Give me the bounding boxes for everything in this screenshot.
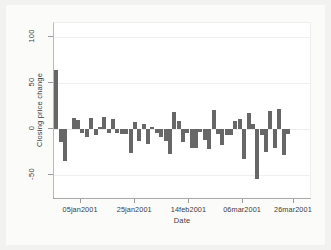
bar <box>129 129 133 153</box>
x-axis-line <box>53 198 311 199</box>
y-axis-tick-label: 0 <box>14 122 48 134</box>
y-axis-tick-label-text: 50 <box>27 77 36 86</box>
gridline <box>54 83 310 84</box>
x-axis-tick <box>293 199 294 203</box>
gridline <box>54 175 310 176</box>
bar <box>137 129 141 141</box>
bar <box>168 129 172 154</box>
x-axis-tick-label: 14feb2001 <box>158 205 218 214</box>
x-axis-tick <box>134 199 135 203</box>
x-axis-tick-label: 26mar2001 <box>263 205 323 214</box>
bar <box>94 129 98 135</box>
bar <box>238 119 242 129</box>
x-axis-tick <box>80 199 81 203</box>
bar <box>54 70 58 129</box>
bar <box>85 129 89 137</box>
bar <box>63 129 67 161</box>
gridline <box>54 37 310 38</box>
bar <box>255 129 259 179</box>
bar <box>146 129 150 144</box>
y-axis-tick-label: 100 <box>14 30 48 42</box>
x-axis-tick-label: 05jan2001 <box>50 205 110 214</box>
chart-figure: Closing price change 100500-50 05jan2001… <box>0 0 331 250</box>
bar <box>242 129 246 159</box>
bar <box>194 129 198 148</box>
bar <box>207 129 211 149</box>
y-axis-tick-label-text: 0 <box>27 126 36 130</box>
bar <box>273 129 277 148</box>
bar <box>76 120 80 129</box>
x-axis-title: Date <box>53 216 311 225</box>
bar <box>107 129 111 133</box>
y-axis-tick-label-text: -50 <box>27 168 36 180</box>
bar <box>102 117 106 129</box>
bar <box>111 119 115 129</box>
bar <box>177 121 181 129</box>
bar <box>89 118 93 129</box>
x-axis-tick <box>242 199 243 203</box>
plot-inner <box>54 23 310 197</box>
bar <box>277 109 281 129</box>
x-axis-tick-label: 25jan2001 <box>104 205 164 214</box>
bar <box>229 129 233 135</box>
y-axis-tick-label: 50 <box>14 76 48 88</box>
y-axis-tick-label: -50 <box>14 168 48 180</box>
y-axis-title: Closing price change <box>35 55 44 165</box>
bar <box>212 110 216 129</box>
bar <box>268 111 272 129</box>
bar <box>286 129 290 134</box>
x-axis-tick <box>188 199 189 203</box>
plot-region <box>53 22 311 197</box>
y-axis-tick-label-text: 100 <box>27 29 36 42</box>
bar <box>264 129 268 152</box>
